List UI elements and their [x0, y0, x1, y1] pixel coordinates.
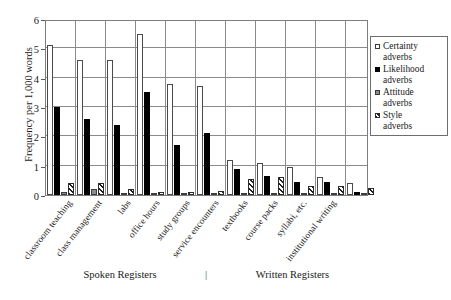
- legend-label: Likelihoodadverbs: [383, 64, 444, 85]
- y-tick-mark: [41, 49, 45, 50]
- legend-swatch-style-icon: [375, 113, 380, 118]
- y-tick-label: 0: [34, 191, 39, 202]
- bar-attitude[interactable]: [241, 193, 247, 195]
- bar-style[interactable]: [68, 183, 74, 195]
- x-tick-label: textbooks: [220, 198, 250, 233]
- y-tick-mark: [41, 167, 45, 168]
- bar-likelihood[interactable]: [54, 107, 60, 195]
- y-tick-mark: [41, 20, 45, 21]
- y-axis-title: Frequency per 1,000 words: [23, 15, 34, 195]
- bar-group: [46, 21, 76, 195]
- bar-group: [316, 21, 346, 195]
- bar-attitude[interactable]: [361, 193, 367, 195]
- legend-label-line1: Style: [383, 110, 444, 121]
- bar-style[interactable]: [158, 192, 164, 195]
- bar-attitude[interactable]: [151, 193, 157, 195]
- legend-label-line1: Certainty: [383, 41, 444, 52]
- y-tick-mark: [41, 196, 45, 197]
- legend-label: Attitudeadverbs: [383, 87, 444, 108]
- register-band: Spoken Registers | Written Registers: [45, 268, 368, 280]
- bar-style[interactable]: [278, 177, 284, 195]
- chart-figure: Frequency per 1,000 words 0123456 classr…: [0, 0, 451, 300]
- legend-label: Certaintyadverbs: [383, 41, 444, 62]
- bar-certainty[interactable]: [137, 34, 143, 195]
- written-registers-label: Written Registers: [217, 269, 368, 280]
- bar-likelihood[interactable]: [264, 176, 270, 195]
- bar-style[interactable]: [218, 191, 224, 195]
- bar-likelihood[interactable]: [294, 182, 300, 195]
- bar-attitude[interactable]: [331, 193, 337, 195]
- y-tick-mark: [41, 79, 45, 80]
- bar-certainty[interactable]: [227, 160, 233, 195]
- bar-certainty[interactable]: [287, 167, 293, 195]
- bar-attitude[interactable]: [61, 192, 67, 195]
- bar-group: [76, 21, 106, 195]
- bar-group: [256, 21, 286, 195]
- bar-attitude[interactable]: [91, 189, 97, 195]
- bar-certainty[interactable]: [77, 60, 83, 195]
- y-tick-label: 5: [34, 44, 39, 55]
- legend-label-line2: adverbs: [383, 121, 444, 132]
- legend-label-line2: adverbs: [383, 98, 444, 109]
- bar-group: [286, 21, 316, 195]
- legend-swatch-attitude-icon: [375, 90, 380, 95]
- spoken-registers-label: Spoken Registers: [45, 269, 195, 280]
- bar-likelihood[interactable]: [234, 169, 240, 195]
- bar-certainty[interactable]: [47, 45, 53, 195]
- legend-swatch-certainty-icon: [375, 44, 380, 49]
- y-tick-mark: [41, 137, 45, 138]
- bar-certainty[interactable]: [197, 86, 203, 195]
- bar-certainty[interactable]: [167, 84, 173, 195]
- bar-style[interactable]: [188, 192, 194, 195]
- bar-likelihood[interactable]: [144, 92, 150, 195]
- bar-style[interactable]: [308, 186, 314, 195]
- chart-legend: CertaintyadverbsLikelihoodadverbsAttitud…: [370, 36, 448, 136]
- legend-label-line2: adverbs: [383, 75, 444, 86]
- legend-label: Styleadverbs: [383, 110, 444, 131]
- bar-groups: [46, 21, 367, 195]
- bar-certainty[interactable]: [347, 183, 353, 195]
- bar-certainty[interactable]: [257, 163, 263, 195]
- legend-item[interactable]: Attitudeadverbs: [375, 87, 444, 108]
- bar-likelihood[interactable]: [204, 133, 210, 195]
- bar-attitude[interactable]: [211, 193, 217, 195]
- legend-item[interactable]: Certaintyadverbs: [375, 41, 444, 62]
- bar-attitude[interactable]: [121, 193, 127, 195]
- legend-swatch-likelihood-icon: [375, 67, 380, 72]
- bar-likelihood[interactable]: [174, 145, 180, 195]
- bar-group: [166, 21, 196, 195]
- y-tick-label: 2: [34, 132, 39, 143]
- bar-group: [136, 21, 166, 195]
- bar-likelihood[interactable]: [324, 182, 330, 195]
- y-tick-label: 6: [34, 15, 39, 26]
- bar-likelihood[interactable]: [354, 192, 360, 195]
- bar-group: [196, 21, 226, 195]
- bar-style[interactable]: [248, 179, 254, 195]
- bar-attitude[interactable]: [271, 193, 277, 195]
- plot-area: [45, 20, 368, 196]
- bar-group: [226, 21, 256, 195]
- legend-item[interactable]: Likelihoodadverbs: [375, 64, 444, 85]
- bar-style[interactable]: [98, 183, 104, 195]
- bar-certainty[interactable]: [317, 177, 323, 195]
- bar-group: [106, 21, 136, 195]
- legend-item[interactable]: Styleadverbs: [375, 110, 444, 131]
- y-tick-label: 3: [34, 103, 39, 114]
- y-tick-label: 4: [34, 73, 39, 84]
- y-tick-mark: [41, 108, 45, 109]
- bar-certainty[interactable]: [107, 60, 113, 195]
- bar-attitude[interactable]: [181, 193, 187, 195]
- y-tick-label: 1: [34, 161, 39, 172]
- bar-style[interactable]: [128, 189, 134, 195]
- legend-label-line1: Attitude: [383, 87, 444, 98]
- register-divider: |: [195, 268, 217, 280]
- x-tick-label: labs: [115, 198, 132, 216]
- bar-likelihood[interactable]: [84, 119, 90, 195]
- bar-style[interactable]: [368, 188, 374, 195]
- bar-likelihood[interactable]: [114, 125, 120, 195]
- bar-style[interactable]: [338, 186, 344, 195]
- bar-attitude[interactable]: [301, 193, 307, 195]
- legend-label-line2: adverbs: [383, 52, 444, 63]
- legend-label-line1: Likelihood: [383, 64, 444, 75]
